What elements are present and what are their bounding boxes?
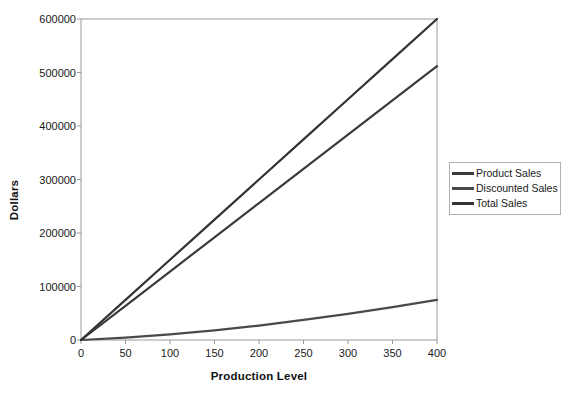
series-line	[81, 66, 437, 340]
x-tick-label: 250	[294, 347, 312, 359]
x-tick-label: 350	[383, 347, 401, 359]
legend-item[interactable]: Total Sales	[452, 196, 557, 211]
x-tick-label: 150	[205, 347, 223, 359]
x-tick-label: 100	[161, 347, 179, 359]
legend-item-label: Total Sales	[476, 198, 527, 209]
x-tick-label: 300	[339, 347, 357, 359]
legend-item-label: Product Sales	[476, 168, 541, 179]
x-tick-label: 50	[119, 347, 131, 359]
x-tick-label: 200	[250, 347, 268, 359]
legend-item[interactable]: Discounted Sales	[452, 181, 557, 196]
x-tick-label: 400	[428, 347, 446, 359]
chart-legend: Product SalesDiscounted SalesTotal Sales	[449, 162, 561, 215]
x-tick-label: 0	[78, 347, 84, 359]
series-lines	[81, 19, 437, 340]
legend-swatch-icon	[452, 187, 474, 190]
legend-item[interactable]: Product Sales	[452, 166, 557, 181]
x-axis-title: Production Level	[81, 370, 437, 382]
series-line	[81, 300, 437, 340]
line-chart: Dollars 01000002000003000004000005000006…	[0, 0, 575, 399]
legend-swatch-icon	[452, 202, 474, 205]
series-line	[81, 19, 437, 340]
legend-item-label: Discounted Sales	[476, 183, 558, 194]
x-axis-tick-labels: 050100150200250300350400	[0, 347, 575, 367]
legend-swatch-icon	[452, 172, 474, 175]
